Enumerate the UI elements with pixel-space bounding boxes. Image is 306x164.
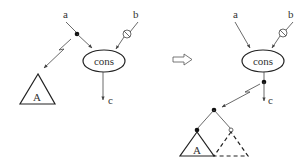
cons-label-left: cons [94,55,114,67]
edge-b-left [130,22,138,32]
edge-dot-to-cons-left [77,34,92,48]
label-b-right: b [288,8,294,20]
slash-right [280,30,286,36]
label-c-left: c [108,94,113,106]
label-a-left: a [63,8,68,20]
right-diagram: a b cons c A [180,8,294,156]
label-b-left: b [133,8,139,20]
label-a-right: a [233,8,238,20]
edge-a-left [66,22,77,33]
subtree-r-dashed [214,132,248,156]
diagram-canvas: a b cons c A a b [0,0,306,164]
edge-a-right [235,22,250,48]
edge-to-a-subtree [197,110,214,129]
left-diagram: a b cons c A [20,8,139,106]
subtree-a-label-left: A [33,91,41,103]
lazy-edge-left [44,39,71,68]
lazy-edge-right [222,84,260,107]
edge-b-right [286,22,293,30]
slash-left [124,31,130,37]
edge-circle-to-cons-right [272,36,280,48]
edge-to-r-subtree [214,110,231,129]
subtree-a-label-right: A [193,144,201,156]
hollow-arrow-icon [173,54,192,65]
cons-label-right: cons [253,55,273,67]
transform-arrow [173,54,192,65]
edge-circle-to-cons-left [116,37,124,49]
label-c-right: c [268,94,273,106]
